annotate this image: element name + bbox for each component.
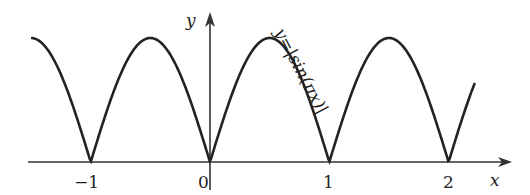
tick-label-1: 1: [323, 172, 334, 192]
curve-abs-sin: [31, 38, 475, 161]
tick-label-2: 2: [443, 172, 454, 192]
y-axis-label: y: [185, 10, 196, 30]
curve-label: y=|sin(πx)|: [270, 24, 332, 118]
x-axis-label: x: [490, 170, 500, 190]
tick-label-0: 0: [198, 172, 209, 192]
plot-canvas: y x −1 0 1 2 y=|sin(πx)|: [0, 0, 530, 195]
tick-label-minus1: −1: [74, 172, 99, 192]
